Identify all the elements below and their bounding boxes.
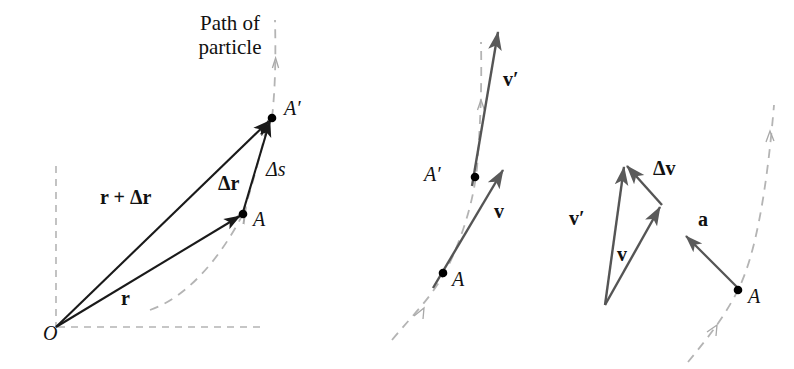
velocity-label-point-a-prime: A′ bbox=[424, 163, 441, 185]
point-a-dot bbox=[239, 210, 248, 219]
label-vector-r-plus-delta-r: r + Δr bbox=[100, 186, 151, 208]
vector-r-plus-delta-r-arrow bbox=[56, 121, 269, 327]
triangle-label-vector-v-prime: v′ bbox=[569, 207, 585, 229]
acceleration-point-a-dot bbox=[734, 286, 743, 295]
point-a-prime-dot bbox=[268, 114, 277, 123]
panel-acceleration-graphics bbox=[605, 105, 774, 362]
vector-a-arrow bbox=[686, 236, 738, 288]
label-vector-delta-r: Δr bbox=[218, 172, 239, 194]
figure-canvas bbox=[0, 0, 794, 369]
velocity-label-point-a: A bbox=[452, 268, 464, 290]
vector-v-prime-arrow bbox=[472, 32, 498, 186]
velocity-point-a-dot bbox=[439, 269, 448, 278]
panel-position-graphics bbox=[56, 20, 279, 327]
label-origin-o: O bbox=[43, 322, 57, 344]
acceleration-panel-path-dashed bbox=[688, 105, 774, 362]
velocity-panel-path-dashed bbox=[392, 42, 481, 340]
path-of-particle-caption: Path of particle bbox=[178, 12, 282, 59]
acceleration-label-point-a: A bbox=[748, 285, 760, 307]
triangle-vector-v-prime-arrow bbox=[605, 167, 624, 305]
velocity-point-a-prime-dot bbox=[471, 173, 480, 182]
caption-line-2: particle bbox=[178, 36, 282, 60]
physics-vector-figure: Path of particle O A A′ r r + Δr Δr Δs A… bbox=[0, 0, 794, 369]
label-point-a: A bbox=[253, 208, 265, 230]
label-vector-v-prime: v′ bbox=[503, 68, 519, 90]
label-arc-delta-s: Δs bbox=[266, 158, 286, 180]
label-vector-r: r bbox=[121, 287, 130, 309]
vector-r-arrow bbox=[56, 216, 240, 327]
label-vector-a: a bbox=[698, 208, 708, 230]
label-point-a-prime: A′ bbox=[284, 97, 301, 119]
triangle-vector-v-arrow bbox=[605, 207, 660, 305]
label-vector-delta-v: Δv bbox=[653, 157, 676, 179]
panel-velocity-graphics bbox=[392, 32, 503, 340]
caption-line-1: Path of bbox=[178, 12, 282, 36]
triangle-label-vector-v: v bbox=[617, 243, 627, 265]
label-vector-v: v bbox=[494, 200, 504, 222]
